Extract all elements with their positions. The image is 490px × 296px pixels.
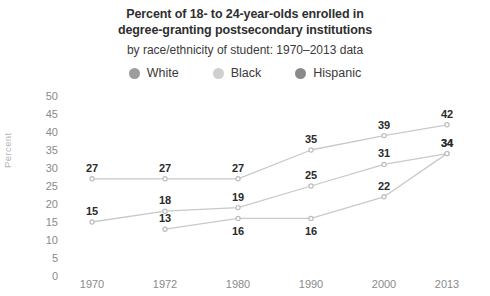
data-point-label: 16 [305, 225, 317, 237]
y-tick-25: 25 [46, 180, 58, 192]
y-tick-15: 15 [46, 216, 58, 228]
data-point-label: 35 [305, 133, 317, 145]
data-point-label: 18 [159, 194, 171, 206]
data-point-marker[interactable] [90, 177, 94, 181]
x-tick-1970: 1970 [80, 278, 104, 290]
title-line-2: degree-granting postsecondary institutio… [0, 22, 490, 38]
data-point-label: 16 [232, 225, 244, 237]
x-tick-1972: 1972 [153, 278, 177, 290]
data-point-marker[interactable] [163, 177, 167, 181]
data-point-marker[interactable] [163, 227, 167, 231]
legend-item-black[interactable]: Black [213, 66, 262, 80]
y-tick-50: 50 [46, 90, 58, 102]
y-tick-30: 30 [46, 162, 58, 174]
x-tick-1990: 1990 [299, 278, 323, 290]
chart-legend: WhiteBlackHispanic [0, 66, 490, 80]
series-lines [62, 96, 472, 276]
y-tick-10: 10 [46, 234, 58, 246]
y-tick-45: 45 [46, 108, 58, 120]
legend-item-label: Black [231, 66, 262, 80]
x-axis-tick-labels: 197019721980199020002013 [62, 278, 472, 294]
data-point-marker[interactable] [236, 177, 240, 181]
y-tick-5: 5 [52, 252, 58, 264]
legend-item-hispanic[interactable]: Hispanic [295, 66, 361, 80]
plot-area: 2727273539421518192531341316162234 [62, 96, 472, 276]
data-point-marker[interactable] [445, 152, 449, 156]
data-point-marker[interactable] [445, 123, 449, 127]
title-line-1: Percent of 18- to 24-year-olds enrolled … [0, 6, 490, 22]
data-point-label: 31 [378, 147, 390, 159]
data-point-label: 42 [441, 108, 453, 120]
data-point-marker[interactable] [382, 162, 386, 166]
data-point-marker[interactable] [309, 184, 313, 188]
y-tick-20: 20 [46, 198, 58, 210]
data-point-marker[interactable] [382, 195, 386, 199]
chart-title: Percent of 18- to 24-year-olds enrolled … [0, 6, 490, 38]
series-line-hispanic [165, 154, 447, 230]
data-point-label: 27 [232, 162, 244, 174]
y-tick-0: 0 [52, 270, 58, 282]
data-point-marker[interactable] [236, 206, 240, 210]
data-point-label: 15 [86, 205, 98, 217]
legend-item-label: Hispanic [313, 66, 361, 80]
data-point-label: 27 [159, 162, 171, 174]
legend-item-white[interactable]: White [129, 66, 179, 80]
data-point-marker[interactable] [90, 220, 94, 224]
data-point-label: 27 [86, 162, 98, 174]
x-tick-2000: 2000 [372, 278, 396, 290]
y-tick-40: 40 [46, 126, 58, 138]
y-tick-35: 35 [46, 144, 58, 156]
y-axis-tick-labels: 05101520253035404550 [28, 90, 58, 276]
data-point-label: 25 [305, 169, 317, 181]
data-point-marker[interactable] [382, 134, 386, 138]
legend-swatch-icon [129, 68, 140, 79]
x-tick-2013: 2013 [435, 278, 459, 290]
data-point-marker[interactable] [309, 148, 313, 152]
legend-item-label: White [147, 66, 179, 80]
x-tick-1980: 1980 [226, 278, 250, 290]
data-point-marker[interactable] [236, 216, 240, 220]
data-point-marker[interactable] [309, 216, 313, 220]
series-line-white [92, 125, 447, 179]
data-point-label: 39 [378, 119, 390, 131]
series-line-black [92, 154, 447, 222]
data-point-label: 34 [441, 137, 453, 149]
data-point-label: 19 [232, 191, 244, 203]
data-point-label: 22 [378, 180, 390, 192]
chart-subtitle: by race/ethnicity of student: 1970–2013 … [0, 42, 490, 58]
chart-page: Percent of 18- to 24-year-olds enrolled … [0, 0, 490, 296]
legend-swatch-icon [295, 68, 306, 79]
data-point-label: 13 [159, 212, 171, 224]
legend-swatch-icon [213, 68, 224, 79]
y-axis-title: Percent [2, 132, 13, 168]
